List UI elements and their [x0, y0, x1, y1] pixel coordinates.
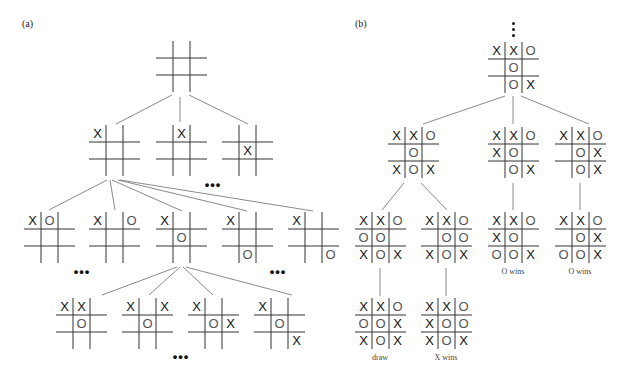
x-mark: X [488, 127, 505, 144]
o-mark: O [123, 212, 140, 229]
o-mark: O [505, 246, 522, 263]
o-mark: O [389, 212, 406, 229]
ellipsis-a-l3-more: ••• [173, 354, 190, 360]
o-mark: O [505, 161, 522, 178]
o-mark: O [372, 229, 389, 246]
x-mark: X [421, 332, 438, 349]
o-mark: O [522, 42, 539, 59]
tree-edge [49, 180, 107, 210]
o-mark: O [455, 298, 472, 315]
panel-label-a: (a) [22, 18, 33, 29]
o-mark: O [438, 315, 455, 332]
x-mark: X [555, 127, 572, 144]
x-mark: X [589, 246, 606, 263]
x-mark: X [355, 298, 372, 315]
x-mark: X [488, 42, 505, 59]
o-mark: O [505, 229, 522, 246]
o-mark: O [589, 127, 606, 144]
tree-edge [421, 183, 447, 210]
o-mark: O [505, 144, 522, 161]
x-mark: X [505, 127, 522, 144]
ellipsis-a-l2-more-right: ••• [270, 269, 287, 275]
x-mark: X [438, 212, 455, 229]
x-mark: X [173, 125, 190, 142]
x-mark: X [589, 161, 606, 178]
tree-edge [183, 267, 213, 295]
o-mark: O [355, 315, 372, 332]
o-mark: O [555, 246, 572, 263]
tree-edge [521, 96, 589, 124]
x-mark: X [89, 212, 106, 229]
o-mark: O [41, 212, 58, 229]
tree-edge [116, 95, 172, 124]
ellipsis-a-l2-more-left: ••• [74, 269, 91, 275]
x-mark: X [421, 212, 438, 229]
o-mark: O [322, 246, 339, 263]
x-mark: X [222, 315, 239, 332]
ellipsis-a-l1-more: ••• [205, 182, 222, 188]
x-mark: X [555, 212, 572, 229]
x-mark: X [455, 332, 472, 349]
o-mark: O [455, 212, 472, 229]
x-mark: X [522, 76, 539, 93]
x-mark: X [89, 125, 106, 142]
o-mark: O [372, 246, 389, 263]
o-mark: O [205, 315, 222, 332]
x-mark: X [188, 298, 205, 315]
tree-edge [118, 180, 247, 211]
x-mark: X [488, 212, 505, 229]
o-mark: O [572, 144, 589, 161]
x-mark: X [421, 298, 438, 315]
x-mark: X [24, 212, 41, 229]
o-mark: O [438, 246, 455, 263]
x-mark: X [288, 212, 305, 229]
x-mark: X [572, 127, 589, 144]
outcome-label-b-l2-4: O wins [569, 267, 592, 276]
outcome-label-b-l2-3: O wins [502, 267, 525, 276]
o-mark: O [488, 246, 505, 263]
x-mark: X [522, 246, 539, 263]
x-mark: X [422, 161, 439, 178]
tree-edge [102, 267, 177, 295]
o-mark: O [572, 161, 589, 178]
x-mark: X [589, 229, 606, 246]
o-mark: O [522, 127, 539, 144]
x-mark: X [156, 212, 173, 229]
x-mark: X [421, 246, 438, 263]
o-mark: O [422, 127, 439, 144]
tree-edge [423, 96, 505, 124]
x-mark: X [388, 161, 405, 178]
x-mark: X [388, 127, 405, 144]
x-mark: X [438, 298, 455, 315]
o-mark: O [405, 144, 422, 161]
x-mark: X [355, 332, 372, 349]
o-mark: O [572, 246, 589, 263]
x-mark: X [239, 142, 256, 159]
o-mark: O [73, 315, 90, 332]
o-mark: O [455, 229, 472, 246]
o-mark: O [572, 229, 589, 246]
o-mark: O [505, 59, 522, 76]
o-mark: O [173, 229, 190, 246]
outcome-label-b-l3-1: draw [372, 353, 388, 362]
panel-label-b: (b) [355, 18, 367, 29]
vertical-ellipsis-icon [512, 22, 516, 40]
o-mark: O [405, 161, 422, 178]
x-mark: X [572, 212, 589, 229]
o-mark: O [438, 229, 455, 246]
x-mark: X [355, 246, 372, 263]
x-mark: X [372, 212, 389, 229]
x-mark: X [522, 161, 539, 178]
x-mark: X [355, 212, 372, 229]
outcome-label-b-l3-2: X wins [435, 353, 458, 362]
x-mark: X [288, 332, 305, 349]
o-mark: O [522, 212, 539, 229]
tree-edge [189, 95, 248, 124]
x-mark: X [589, 144, 606, 161]
o-mark: O [139, 315, 156, 332]
board-grid-a-root [156, 41, 207, 92]
x-mark: X [122, 298, 139, 315]
o-mark: O [589, 212, 606, 229]
x-mark: X [156, 298, 173, 315]
o-mark: O [372, 315, 389, 332]
